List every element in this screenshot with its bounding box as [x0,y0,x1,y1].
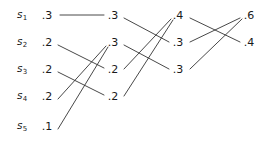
probability-node-c1n4: .2 [42,91,53,102]
edge-layer [0,0,271,144]
merge-edge [124,45,169,69]
source-label-s5: s5 [17,120,27,133]
probability-node-c2n4: .2 [108,91,119,102]
probability-node-c2n1: .3 [108,10,119,21]
merge-edge [124,19,171,69]
source-label-s2: s2 [17,36,27,49]
source-label-s3: s3 [17,63,27,76]
probability-node-c1n5: .1 [42,121,53,132]
merge-edge [58,47,108,129]
probability-node-c3n3: .3 [173,64,184,75]
source-subscript: 4 [23,95,27,103]
merge-edge [124,18,169,42]
source-subscript: 5 [23,125,27,133]
source-label-s1: s1 [17,9,27,22]
probability-node-c4n1: .6 [244,10,255,21]
source-label-s4: s4 [17,90,27,103]
merge-edge [58,46,106,99]
probability-node-c2n2: .3 [108,37,119,48]
probability-node-c2n3: .2 [108,64,119,75]
probability-node-c1n1: .3 [42,10,53,21]
probability-node-c3n1: .4 [173,10,184,21]
probability-node-c4n2: .4 [244,37,255,48]
source-subscript: 1 [23,14,27,22]
probability-node-c3n2: .3 [173,37,184,48]
probability-node-c1n3: .2 [42,64,53,75]
probability-node-c1n2: .2 [42,37,53,48]
merge-edge [190,19,242,69]
huffman-merge-diagram: s1s2s3s4s5 .3.2.2.2.1.3.3.2.2.4.3.3.6.4 [0,0,271,144]
source-subscript: 3 [23,68,27,76]
source-subscript: 2 [23,41,27,49]
